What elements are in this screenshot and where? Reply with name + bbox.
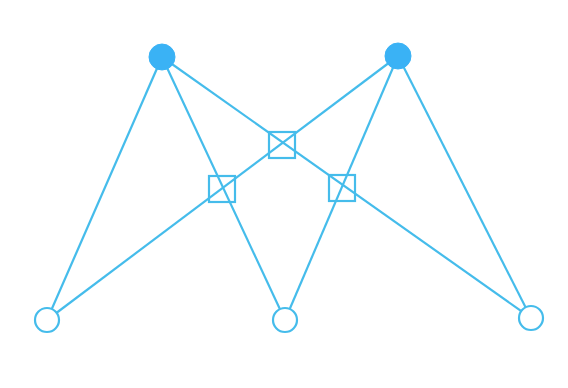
nodes [35, 43, 543, 332]
hollow-node-icon [273, 308, 297, 332]
edge-t2-b2 [285, 56, 398, 320]
factor-graph [0, 0, 568, 388]
edges [47, 56, 531, 320]
edge-t2-b3 [398, 56, 531, 318]
edge-t1-b3 [162, 57, 531, 318]
filled-node-icon [149, 44, 175, 70]
hollow-node-icon [35, 308, 59, 332]
hollow-node-icon [519, 306, 543, 330]
filled-node-icon [385, 43, 411, 69]
edge-t1-b1 [47, 57, 162, 320]
diagram-canvas [0, 0, 568, 388]
